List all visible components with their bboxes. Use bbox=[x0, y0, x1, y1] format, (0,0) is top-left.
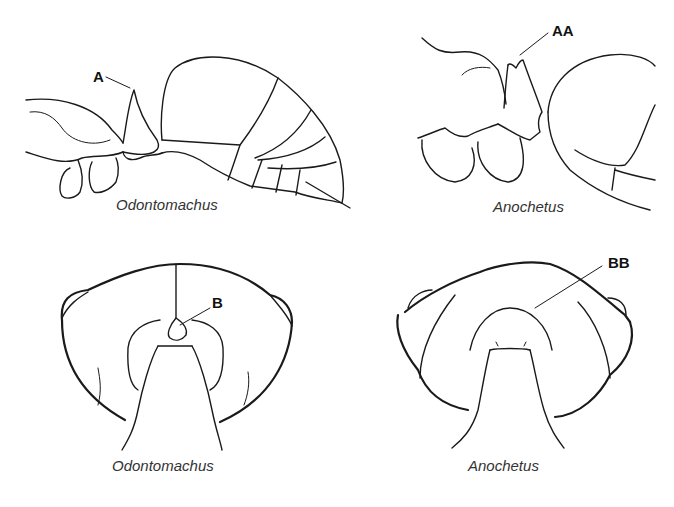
caption-odontomachus-lateral: Odontomachus bbox=[116, 196, 218, 213]
panel-anochetus-lateral: AA Anochetus bbox=[380, 0, 674, 230]
panel-anochetus-head: BB Anochetus bbox=[380, 250, 674, 507]
caption-anochetus-head: Anochetus bbox=[468, 457, 539, 474]
caption-anochetus-lateral: Anochetus bbox=[493, 198, 564, 215]
caption-odontomachus-head: Odontomachus bbox=[112, 457, 214, 474]
panel-odontomachus-head: B Odontomachus bbox=[30, 250, 330, 507]
panel-odontomachus-lateral: A Odontomachus bbox=[0, 0, 360, 230]
pointer-line-aa bbox=[380, 0, 674, 230]
